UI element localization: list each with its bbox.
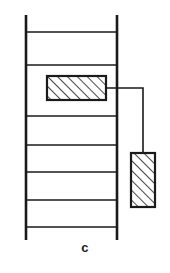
upper-hatched-block [47, 76, 106, 100]
lower-hatched-block-hatch [131, 153, 155, 207]
figure-container: c [0, 0, 170, 273]
upper-hatched-block-hatch [47, 76, 106, 100]
ladder-diagram [0, 0, 170, 273]
lower-hatched-block [131, 153, 155, 207]
